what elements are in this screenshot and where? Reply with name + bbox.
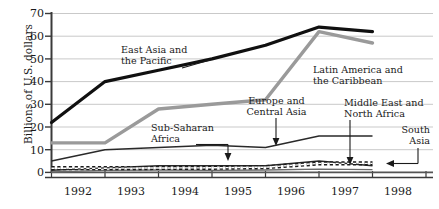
chart-figure: Billions of U.S. dollars 70 60 50 40 30 … [0, 0, 439, 209]
leader-europe-central-asia [273, 118, 280, 146]
leader-south-asia [386, 148, 418, 167]
annotation-sub-saharan-line1: Sub-Saharan [151, 122, 214, 133]
annotation-middle-east-and-north-africa: Middle East and North Africa [344, 97, 424, 120]
annotation-south-asia-line1: South [378, 124, 430, 135]
annotation-europe-line2: Central Asia [234, 106, 319, 117]
annotation-east-asia-line2: the Pacific [121, 55, 187, 66]
annotation-middle-east-line2: North Africa [344, 108, 424, 119]
annotation-latin-america-line2: the Caribbean [313, 75, 403, 86]
annotation-south-asia-line2: Asia [378, 135, 430, 146]
annotation-europe-line1: Europe and [234, 95, 319, 106]
leader-sub-saharan-africa [196, 145, 231, 162]
annotation-europe-and-central-asia: Europe and Central Asia [234, 95, 319, 118]
annotation-south-asia: South Asia [378, 124, 430, 147]
annotation-east-asia-line1: East Asia and [121, 44, 187, 55]
annotation-sub-saharan-africa: Sub-Saharan Africa [151, 122, 214, 145]
annotation-middle-east-line1: Middle East and [344, 97, 424, 108]
annotation-east-asia-and-the-pacific: East Asia and the Pacific [121, 44, 187, 67]
y-axis-ticks [45, 14, 51, 173]
annotation-latin-america-and-the-caribbean: Latin America and the Caribbean [313, 64, 403, 87]
annotation-sub-saharan-line2: Africa [151, 133, 214, 144]
annotation-latin-america-line1: Latin America and [313, 64, 403, 75]
